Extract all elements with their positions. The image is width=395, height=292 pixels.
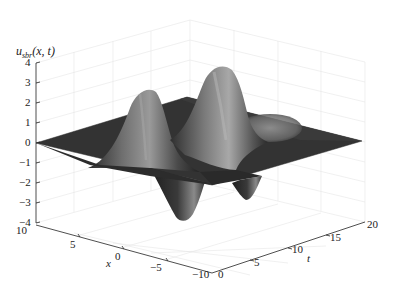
z-tick-label: 2: [25, 96, 31, 108]
surface-plot: [0, 0, 395, 292]
z-tick-label: 0: [25, 136, 31, 148]
z-tick-label: 3: [25, 76, 31, 88]
x-axis-label: x: [106, 257, 111, 269]
x-tick-label: −5: [150, 261, 162, 273]
t-tick-label: 10: [292, 243, 303, 255]
t-tick-label: 0: [218, 268, 224, 280]
z-axis-label: usbr(x, t): [16, 44, 55, 60]
t-tick-label: 15: [330, 231, 341, 243]
z-tick-label: −2: [19, 176, 31, 188]
t-tick-label: 5: [254, 256, 260, 268]
z-tick-label: 1: [25, 116, 31, 128]
z-tick-label: −1: [19, 156, 31, 168]
z-tick-label: −3: [19, 196, 31, 208]
x-tick-label: 5: [70, 238, 76, 250]
t-tick-label: 20: [367, 218, 378, 230]
x-tick-label: 0: [115, 250, 121, 262]
x-tick-label: 10: [16, 224, 27, 236]
z-tick-label: 4: [25, 56, 31, 68]
x-tick-label: −10: [192, 268, 209, 280]
t-axis-label: t: [307, 252, 310, 264]
